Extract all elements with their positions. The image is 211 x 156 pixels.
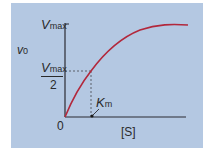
- origin-label: 0: [57, 120, 64, 132]
- y-axis-label: v0: [17, 44, 28, 56]
- km-label: Km: [96, 96, 112, 109]
- half-vmax-numerator: Vmax: [41, 61, 67, 74]
- vmax-label: Vmax: [41, 18, 67, 31]
- km-arrow-head: [90, 114, 93, 117]
- half-vmax-denominator: 2: [50, 79, 57, 91]
- mm-curve: [65, 25, 188, 117]
- chart-plot: [0, 0, 211, 156]
- fraction-bar: [41, 76, 63, 77]
- x-axis-label: [S]: [121, 126, 136, 138]
